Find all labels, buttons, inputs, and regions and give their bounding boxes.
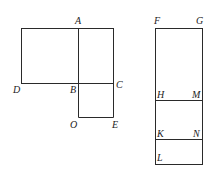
label-n: N — [192, 128, 201, 139]
label-o: O — [70, 119, 77, 130]
right-diagram: F G H M K N L — [153, 15, 203, 165]
rectangle-dacb — [22, 29, 114, 84]
geometry-figure: A D B C O E F G H M K N L — [0, 0, 216, 176]
label-a: A — [74, 15, 82, 26]
left-diagram: A D B C O E — [12, 15, 123, 130]
label-l: L — [156, 152, 163, 163]
label-h: H — [156, 89, 165, 100]
label-f: F — [153, 15, 161, 26]
label-m: M — [191, 89, 201, 100]
label-e: E — [111, 119, 118, 130]
label-d: D — [12, 84, 21, 95]
label-c: C — [116, 79, 123, 90]
label-g: G — [196, 15, 203, 26]
label-k: K — [156, 128, 165, 139]
label-b: B — [70, 84, 76, 95]
